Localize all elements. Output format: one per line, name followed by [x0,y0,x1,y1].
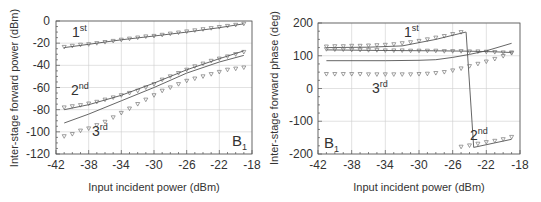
measured-point-marker [400,73,404,77]
right-xtick: -30 [410,158,428,172]
measured-point-marker [209,73,213,77]
left-ytick: -80 [33,103,51,117]
left-x-axis-label: Input incident power (dBm) [88,181,219,193]
right-xtick: -18 [511,158,529,172]
left-xtick: -18 [243,158,261,172]
measured-point-marker [242,66,246,70]
left-xtick: -42 [47,158,65,172]
measured-point-marker [459,145,463,149]
measured-point-marker [459,67,463,71]
right-xtick: -22 [477,158,495,172]
right-ytick: 0 [306,82,313,96]
measured-point-marker [493,57,497,61]
left-xtick: -22 [210,158,228,172]
left-ytick: -100 [26,125,50,139]
measured-point-marker [128,107,132,111]
right-xtick: -26 [444,158,462,172]
right-panel-label: B1 [324,134,339,154]
measured-point-marker [501,51,505,55]
left-xtick: -38 [80,158,98,172]
left-ytick: -40 [33,58,51,72]
right-ytick: 100 [293,49,313,63]
measured-point-marker [201,75,205,79]
measured-point-marker [442,50,446,54]
measured-point-marker [367,73,371,77]
measured-point-marker [234,67,238,71]
right-xtick: -34 [376,158,394,172]
measured-point-marker [476,62,480,66]
right-chart: 200 100 0 -100 -200 -42 -38 -34 -30 -26 … [268,11,529,193]
right-ytick: 200 [293,16,313,30]
left-label-2nd: 2nd [71,81,89,98]
right-y-axis-label: Inter-stage forward phase (deg) [268,11,280,165]
measured-point-marker [510,135,514,139]
measured-point-marker [136,103,140,107]
measured-point-marker [111,116,115,120]
right-x-axis-label: Input incident power (dBm) [353,181,484,193]
measured-point-marker [392,73,396,77]
measured-point-marker [324,73,328,77]
left-chart: 0 -20 -40 -60 -80 -100 -120 -42 -38 -34 … [8,9,261,193]
measured-point-marker [425,72,429,76]
left-xtick: -26 [178,158,196,172]
left-ytick: -60 [33,81,51,95]
measured-point-marker [79,129,83,133]
measured-point-marker [144,98,148,102]
left-ytick: -20 [33,36,51,50]
measured-point-marker [409,73,413,77]
figure: 0 -20 -40 -60 -80 -100 -120 -42 -38 -34 … [0,0,541,202]
measured-point-marker [70,133,74,137]
measured-point-marker [62,135,66,139]
left-xtick: -30 [145,158,163,172]
measured-point-marker [177,83,181,87]
measured-point-marker [193,77,197,81]
measured-point-marker [333,73,337,77]
measured-point-marker [375,73,379,77]
measured-point-marker [468,50,472,54]
right-ytick: -100 [289,114,313,128]
left-ytick: 0 [43,14,50,28]
measured-point-marker [358,73,362,77]
measured-point-marker [442,71,446,75]
measured-point-marker [510,52,514,56]
left-panel-label: B1 [232,132,247,152]
left-label-1st: 1st [72,23,87,40]
right-xtick: -38 [343,158,361,172]
left-label-3rd: 3rd [92,122,108,139]
right-label-1st: 1st [404,23,419,40]
left-y-axis-label: Inter-stage forward power (dBm) [8,9,20,167]
measured-point-marker [468,144,472,148]
right-xtick: -42 [309,158,327,172]
measured-point-marker [434,72,438,76]
measured-point-marker [226,68,230,72]
measured-point-marker [160,89,164,93]
measured-point-marker [341,73,345,77]
left-xtick: -34 [112,158,130,172]
measured-point-marker [400,42,404,46]
